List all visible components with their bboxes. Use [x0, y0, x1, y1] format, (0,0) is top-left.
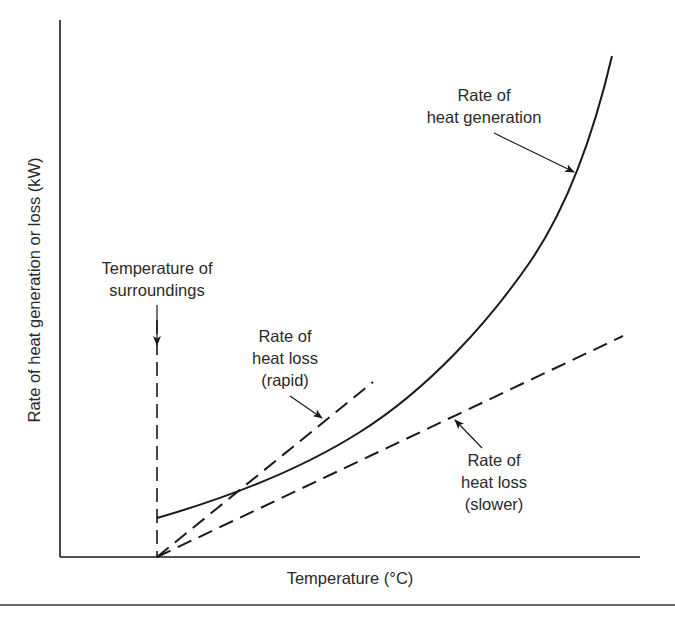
generation-label-line2: heat generation [427, 108, 542, 126]
rapid-label-line3: (rapid) [261, 371, 309, 389]
slower-label-line2: heat loss [461, 473, 527, 491]
generation-label-line1: Rate of [457, 86, 511, 104]
surroundings-label-line2: surroundings [109, 281, 204, 299]
slower-label-line3: (slower) [465, 495, 524, 513]
x-axis-label: Temperature (°C) [287, 569, 414, 587]
heat-generation-curve [157, 56, 612, 518]
slower-arrow-icon [455, 420, 482, 448]
slower-heat-loss-line [157, 336, 623, 557]
rapid-label-line1: Rate of [258, 327, 312, 345]
y-axis-label: Rate of heat generation or loss (kW) [25, 157, 43, 422]
slower-label-line1: Rate of [467, 451, 521, 469]
surroundings-label-line1: Temperature of [102, 259, 213, 277]
rapid-arrow-icon [290, 396, 322, 418]
generation-arrow-icon [494, 133, 574, 172]
rapid-heat-loss-line [157, 382, 373, 557]
rapid-label-line2: heat loss [252, 349, 318, 367]
heat-balance-diagram: Rate of heat generation or loss (kW) Tem… [0, 0, 675, 619]
diagram-canvas: Rate of heat generation or loss (kW) Tem… [0, 0, 675, 619]
